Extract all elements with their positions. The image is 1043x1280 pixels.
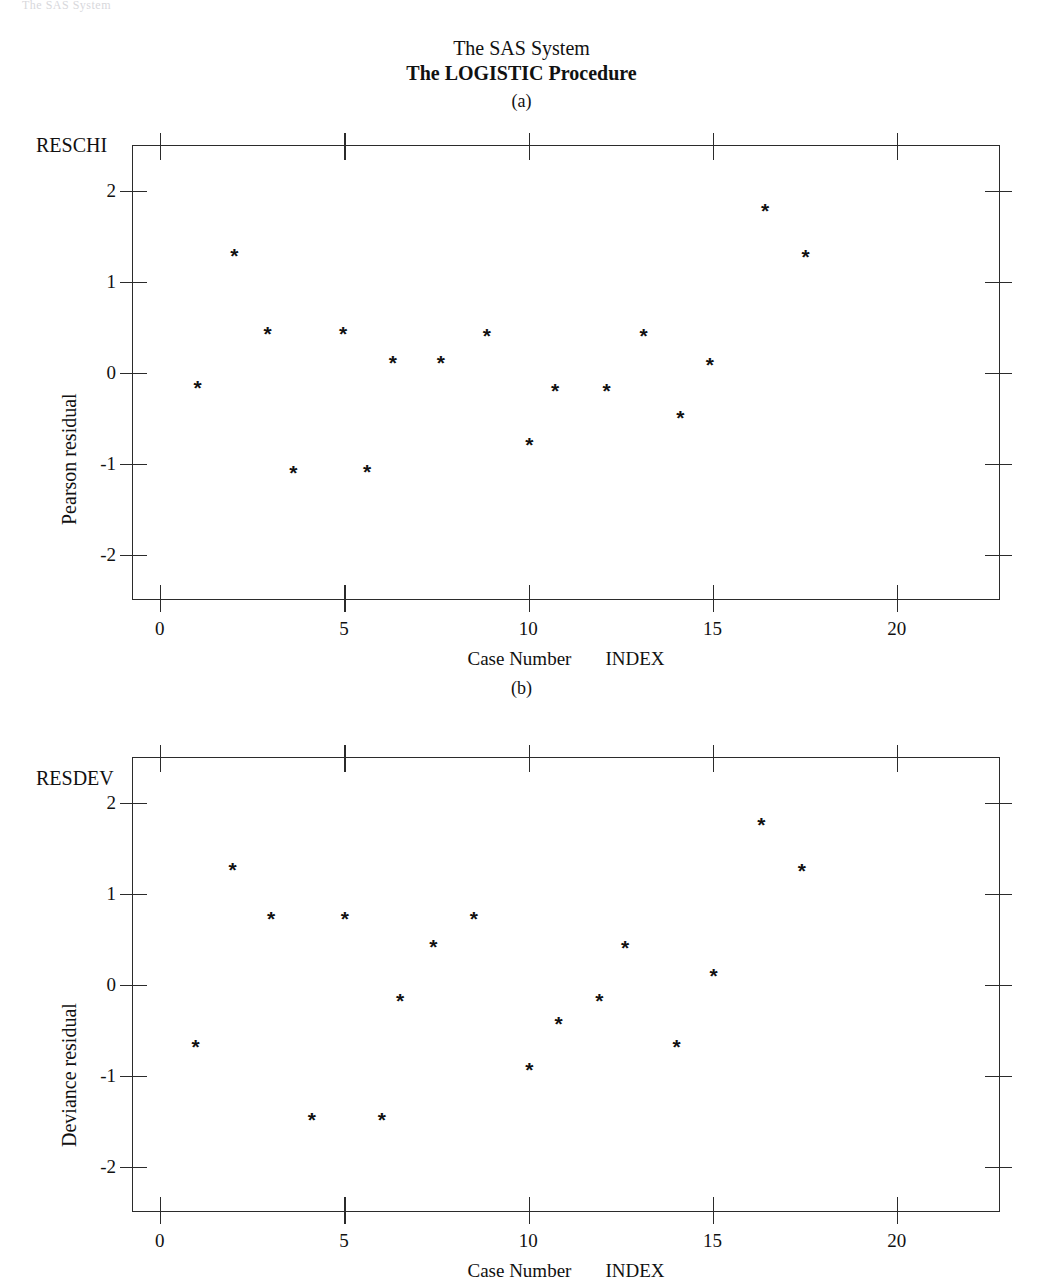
y-tick-right <box>985 985 1012 986</box>
data-point-marker: * <box>551 379 559 400</box>
x-tick-top <box>160 745 161 772</box>
data-point-marker: * <box>483 325 491 346</box>
x-tick-label: 0 <box>155 618 165 640</box>
y-tick-left <box>120 191 147 192</box>
chart-panel-b: RESDEV Deviance residual ***************… <box>0 742 1043 1280</box>
x-axis-title-b: Case NumberINDEX <box>132 1260 1000 1280</box>
y-tick-label: -1 <box>78 1065 116 1087</box>
x-tick-label: 15 <box>703 1230 722 1252</box>
data-point-marker: * <box>341 908 349 929</box>
x-tick-top <box>529 745 530 772</box>
y-tick-left <box>120 282 147 283</box>
y-tick-right <box>985 803 1012 804</box>
y-tick-label: 1 <box>78 271 116 293</box>
data-point-marker: * <box>595 990 603 1011</box>
x-tick-bottom <box>160 1197 161 1224</box>
y-tick-left <box>120 894 147 895</box>
y-tick-label: 0 <box>78 974 116 996</box>
data-point-marker: * <box>603 379 611 400</box>
y-tick-right <box>985 464 1012 465</box>
plot-area-a: ***************** <box>132 145 1000 600</box>
x-tick-top <box>713 133 714 160</box>
y-tick-label: 2 <box>78 792 116 814</box>
x-tick-bottom <box>160 585 161 612</box>
data-point-marker: * <box>429 936 437 957</box>
x-tick-label: 5 <box>339 618 349 640</box>
data-point-marker: * <box>289 461 297 482</box>
x-axis-title-a: Case NumberINDEX <box>132 648 1000 670</box>
x-tick-bottom <box>897 1197 898 1224</box>
y-tick-right <box>985 1167 1012 1168</box>
y-tick-label: -1 <box>78 453 116 475</box>
x-tick-label: 5 <box>339 1230 349 1252</box>
data-point-marker: * <box>757 813 765 834</box>
data-point-marker: * <box>470 908 478 929</box>
x-tick-label: 15 <box>703 618 722 640</box>
y-tick-left <box>120 985 147 986</box>
data-point-marker: * <box>308 1109 316 1130</box>
data-point-marker: * <box>267 908 275 929</box>
panel-tag-b: (b) <box>0 678 1043 699</box>
data-point-marker: * <box>798 859 806 880</box>
y-tick-label: -2 <box>78 1156 116 1178</box>
chart-panel-a: RESCHI Pearson residual ****************… <box>0 130 1043 670</box>
x-tick-top <box>344 133 345 160</box>
y-tick-right <box>985 1076 1012 1077</box>
x-tick-label: 20 <box>887 618 906 640</box>
x-tick-top <box>344 745 345 772</box>
data-point-marker: * <box>639 325 647 346</box>
variable-name-resdev: RESDEV <box>36 767 114 790</box>
x-tick-top <box>160 133 161 160</box>
y-tick-left <box>120 373 147 374</box>
data-point-marker: * <box>673 1036 681 1057</box>
x-tick-top <box>529 133 530 160</box>
y-tick-left <box>120 464 147 465</box>
x-tick-bottom <box>344 1197 345 1224</box>
y-tick-left <box>120 1167 147 1168</box>
y-tick-right <box>985 894 1012 895</box>
y-tick-label: -2 <box>78 544 116 566</box>
data-point-marker: * <box>363 460 371 481</box>
x-tick-bottom <box>529 1197 530 1224</box>
data-point-marker: * <box>396 990 404 1011</box>
data-point-marker: * <box>263 322 271 343</box>
data-point-marker: * <box>525 1059 533 1080</box>
y-tick-label: 0 <box>78 362 116 384</box>
y-tick-right <box>985 373 1012 374</box>
x-tick-bottom <box>713 585 714 612</box>
plot-area-b: ***************** <box>132 757 1000 1212</box>
data-point-marker: * <box>192 1036 200 1057</box>
y-tick-label: 2 <box>78 180 116 202</box>
y-tick-right <box>985 555 1012 556</box>
data-point-marker: * <box>228 859 236 880</box>
data-point-marker: * <box>802 246 810 267</box>
data-point-marker: * <box>706 354 714 375</box>
logistic-procedure-title: The LOGISTIC Procedure <box>0 61 1043 86</box>
x-tick-bottom <box>713 1197 714 1224</box>
y-tick-right <box>985 282 1012 283</box>
x-tick-bottom <box>897 585 898 612</box>
data-point-marker: * <box>339 323 347 344</box>
data-point-marker: * <box>389 351 397 372</box>
x-tick-top <box>897 133 898 160</box>
x-tick-label: 20 <box>887 1230 906 1252</box>
y-tick-left <box>120 555 147 556</box>
data-point-marker: * <box>378 1109 386 1130</box>
y-tick-left <box>120 803 147 804</box>
x-tick-bottom <box>344 585 345 612</box>
x-axis-title-a-right: INDEX <box>605 648 664 669</box>
data-point-marker: * <box>621 937 629 958</box>
panel-tag-a: (a) <box>0 91 1043 112</box>
x-axis-title-a-left: Case Number <box>467 648 571 669</box>
data-point-marker: * <box>761 199 769 220</box>
x-tick-top <box>897 745 898 772</box>
report-title-block: The SAS System The LOGISTIC Procedure <box>0 36 1043 86</box>
variable-name-reschi: RESCHI <box>36 134 107 157</box>
page-bleed-text: The SAS System <box>22 0 111 13</box>
x-tick-bottom <box>529 585 530 612</box>
data-point-marker: * <box>525 433 533 454</box>
x-axis-title-b-right: INDEX <box>605 1260 664 1280</box>
data-point-marker: * <box>676 407 684 428</box>
y-tick-left <box>120 1076 147 1077</box>
sas-system-title: The SAS System <box>0 36 1043 61</box>
